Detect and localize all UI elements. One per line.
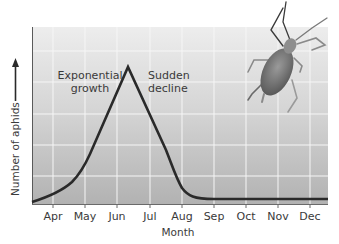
tick-dec: Dec — [299, 210, 320, 223]
tick-may: May — [74, 210, 97, 223]
x-axis-title: Month — [162, 226, 195, 238]
y-axis-arrow-icon — [12, 58, 19, 101]
x-tick-labels: Apr May Jun Jul Aug Sep Oct Nov Dec — [43, 210, 320, 223]
annotation-decline: decline — [148, 82, 188, 95]
aphid-population-chart: Exponential growth Sudden decline Apr Ma… — [0, 0, 339, 244]
tick-nov: Nov — [267, 210, 289, 223]
tick-jul: Jul — [142, 210, 156, 223]
annotation-growth: growth — [71, 82, 109, 95]
tick-sep: Sep — [204, 210, 225, 223]
annotation-sudden: Sudden — [148, 69, 190, 82]
tick-aug: Aug — [171, 210, 192, 223]
y-axis-title: Number of aphids — [9, 102, 21, 196]
annotation-exponential: Exponential — [57, 69, 122, 82]
tick-oct: Oct — [236, 210, 256, 223]
tick-jun: Jun — [107, 210, 125, 223]
tick-apr: Apr — [43, 210, 63, 223]
